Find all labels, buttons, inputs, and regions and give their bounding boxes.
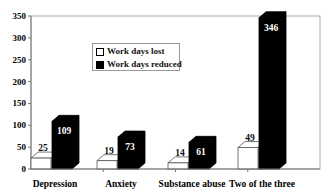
category-label: Substance abuse [159,179,226,189]
legend-swatch-white [96,48,104,56]
value-label: 49 [245,133,255,143]
legend-item-work-days-lost: Work days lost [96,45,176,58]
value-label: 14 [175,148,185,158]
y-tick-label: 250 [13,55,27,65]
y-tick-label: 300 [13,33,27,43]
value-label: 73 [125,142,135,152]
category-label: Depression [33,179,78,189]
y-tick-label: 350 [13,11,27,21]
x-axis: DepressionAnxietySubstance abuseTwo of t… [31,169,320,189]
value-label: 25 [38,143,48,153]
y-tick-label: 50 [17,142,27,152]
bar-work-days-lost [31,158,51,169]
y-tick-label: 0 [22,164,27,174]
y-tick-label: 150 [13,98,27,108]
bar-work-days-lost [238,148,258,169]
value-label: 109 [57,126,72,136]
bar-work-days-lost [97,161,117,169]
legend-item-work-days-reduced: Work days reduced [96,58,176,71]
category-label: Two of the three [229,179,295,189]
bar-work-days-lost [168,163,188,169]
category-label: Anxiety [105,179,137,189]
legend: Work days lost Work days reduced [92,43,180,71]
legend-label: Work days reduced [107,58,182,71]
value-label: 61 [196,147,206,157]
value-label: 19 [104,146,114,156]
legend-swatch-black [96,61,104,69]
y-tick-label: 100 [13,120,27,130]
legend-label: Work days lost [107,45,165,58]
value-label: 346 [264,23,279,33]
y-axis: 050100150200250300350 [13,11,32,174]
bar-chart: 050100150200250300350 251091973146149346… [0,0,333,196]
bar-work-days-reduced [259,18,279,169]
y-tick-label: 200 [13,77,27,87]
